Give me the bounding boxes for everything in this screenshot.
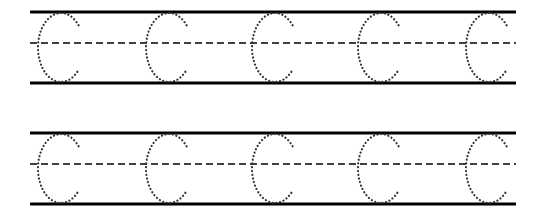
dotted-letter-c — [146, 13, 187, 82]
dotted-letter-c — [358, 13, 399, 82]
dotted-letter-c — [146, 134, 187, 203]
worksheet — [0, 0, 542, 218]
dotted-letter-c — [358, 134, 399, 203]
dotted-letter-c — [466, 134, 507, 203]
dotted-letter-c — [252, 134, 293, 203]
dotted-letter-c — [38, 134, 79, 203]
dotted-letter-c — [38, 13, 79, 82]
dotted-letter-c — [252, 13, 293, 82]
dotted-letter-c — [466, 13, 507, 82]
